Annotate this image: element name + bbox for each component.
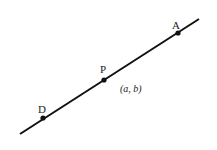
point-a-marker xyxy=(175,30,180,35)
line-diagram: APD (a, b) xyxy=(0,0,217,150)
point-p-label: P xyxy=(100,63,106,75)
point-p-marker xyxy=(101,77,106,82)
coordinate-label: (a, b) xyxy=(120,83,142,95)
point-a-label: A xyxy=(172,19,180,31)
point-d-marker xyxy=(40,115,45,120)
point-d-label: D xyxy=(38,103,46,115)
diagram-canvas: APD (a, b) xyxy=(0,0,217,150)
straight-line xyxy=(20,19,199,134)
